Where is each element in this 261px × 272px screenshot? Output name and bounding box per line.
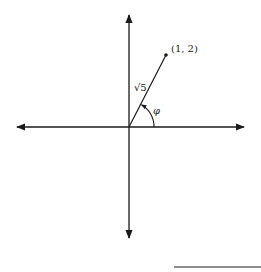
point-marker [164,53,168,57]
point-label: (1, 2) [171,43,198,54]
magnitude-label: √5 [134,82,147,93]
angle-label: φ [153,105,160,116]
coordinate-diagram: (1, 2) √5 φ [0,0,261,272]
